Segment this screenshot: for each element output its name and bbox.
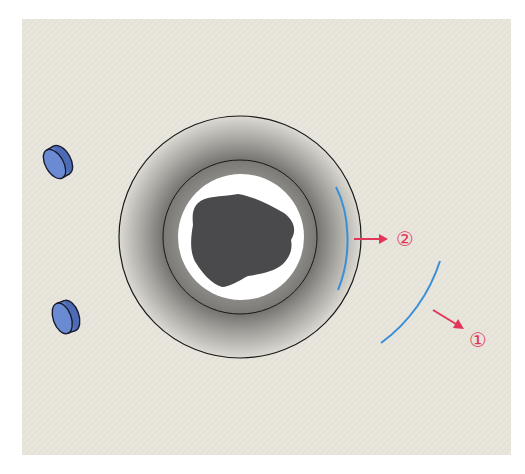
- diagram-canvas: ② ①: [0, 0, 525, 474]
- label-2: ②: [396, 227, 414, 251]
- label-1: ①: [469, 328, 487, 352]
